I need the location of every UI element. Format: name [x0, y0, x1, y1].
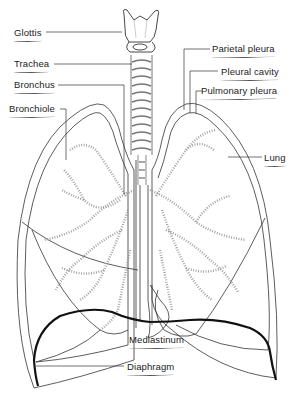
label-bronchus: Bronchus [14, 79, 55, 90]
label-bronchiole: Bronchiole [9, 103, 55, 114]
label-bronchiole-text: Bronchiole [9, 103, 55, 114]
left-lung-illustration [17, 104, 138, 388]
larynx-illustration [123, 10, 158, 53]
label-lung: Lung [264, 152, 286, 163]
label-mediastinum: Mediastinum [129, 334, 184, 345]
label-diaphragm-text: Diaphragm [127, 361, 174, 372]
label-diaphragm: Diaphragm [127, 361, 174, 372]
label-pulmonary-pleura-text: Pulmonary pleura [201, 85, 277, 96]
label-lung-text: Lung [264, 152, 286, 163]
label-pleural-cavity: Pleural cavity [221, 66, 279, 77]
label-mediastinum-text: Mediastinum [129, 334, 184, 345]
trachea-illustration [131, 55, 152, 185]
bronchiole-tree-illustration [44, 130, 246, 330]
label-glottis: Glottis [14, 27, 42, 38]
label-pulmonary-pleura: Pulmonary pleura [201, 85, 277, 96]
label-bronchus-text: Bronchus [14, 79, 55, 90]
label-trachea: Trachea [14, 58, 49, 69]
label-parietal-pleura: Parietal pleura [212, 43, 275, 54]
mediastinum-illustration [136, 160, 169, 338]
leader-lines [36, 32, 262, 366]
label-trachea-text: Trachea [14, 58, 49, 69]
label-pleural-cavity-text: Pleural cavity [221, 66, 279, 77]
label-parietal-pleura-text: Parietal pleura [212, 43, 275, 54]
label-glottis-text: Glottis [14, 27, 42, 38]
